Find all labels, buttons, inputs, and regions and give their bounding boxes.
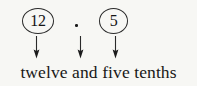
decimal-place-value-diagram: 12 5 twelve and five tenths — [0, 0, 197, 86]
circled-whole-number: 12 — [22, 8, 54, 34]
tenths-digit: 5 — [110, 13, 118, 29]
arrow-down-icon-whole — [31, 36, 42, 59]
arrow-down-icon-point — [75, 36, 86, 59]
arrow-down-icon-tenths — [110, 36, 121, 59]
number-in-words: twelve and five tenths — [0, 62, 197, 83]
decimal-point-dot-icon — [75, 24, 78, 27]
whole-number-digits: 12 — [30, 13, 45, 29]
circled-tenths-digit: 5 — [99, 8, 128, 34]
